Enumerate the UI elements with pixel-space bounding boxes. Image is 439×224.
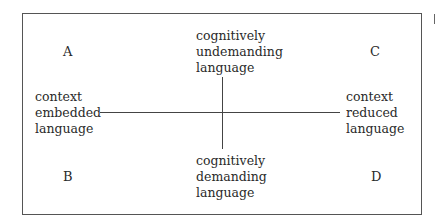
top-axis-label: cognitively undemanding language	[196, 28, 283, 76]
top-axis-line-1: cognitively	[196, 28, 283, 44]
left-axis-line-3: language	[35, 121, 101, 137]
left-axis-line-2: embedded	[35, 105, 101, 121]
right-axis-line-3: language	[346, 121, 404, 137]
left-axis-line-1: context	[35, 89, 101, 105]
top-axis-line-2: undemanding	[196, 44, 283, 60]
top-axis-line-3: language	[196, 60, 283, 76]
right-axis-label: context reduced language	[346, 89, 404, 137]
right-axis-line-2: reduced	[346, 105, 404, 121]
left-axis-label: context embedded language	[35, 89, 101, 137]
quadrant-label-c: C	[370, 44, 380, 59]
cropped-edge-mark	[434, 14, 435, 24]
horizontal-axis-line	[100, 112, 340, 113]
quadrant-label-d: D	[371, 169, 381, 184]
vertical-axis-line	[222, 77, 223, 149]
quadrant-label-b: B	[63, 169, 73, 184]
quadrant-label-a: A	[63, 44, 72, 59]
bottom-axis-line-3: language	[196, 185, 267, 201]
bottom-axis-line-1: cognitively	[196, 153, 267, 169]
right-axis-line-1: context	[346, 89, 404, 105]
bottom-axis-label: cognitively demanding language	[196, 153, 267, 201]
bottom-axis-line-2: demanding	[196, 169, 267, 185]
